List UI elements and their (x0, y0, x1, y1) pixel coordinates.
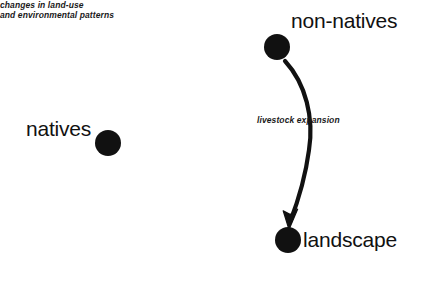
node-natives-dot[interactable] (95, 130, 121, 156)
node-label-landscape: landscape (303, 229, 397, 250)
edge-non-natives-to-landscape (283, 61, 310, 230)
node-non-natives-dot[interactable] (264, 34, 290, 60)
node-landscape-dot[interactable] (275, 227, 301, 253)
node-label-natives: natives (26, 118, 91, 139)
edge-label-livestock-expansion: livestock expansion (257, 115, 340, 125)
node-label-non-natives: non-natives (291, 10, 397, 31)
edge-curve-path (285, 61, 310, 222)
diagram-canvas: natives non-natives landscape livestock … (0, 0, 429, 282)
arrowhead-icon (283, 209, 297, 229)
